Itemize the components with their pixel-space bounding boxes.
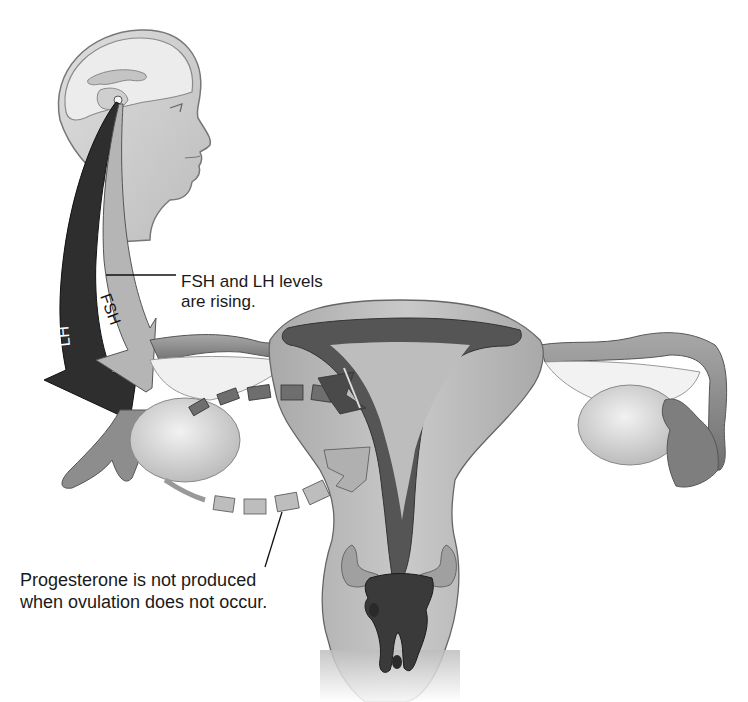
- progesterone-not-produced-label: Progesterone is not produced when ovulat…: [20, 569, 267, 613]
- lh-arrow-label: LH: [54, 325, 73, 347]
- left-ovary: [130, 398, 240, 482]
- flow-droplet: [369, 603, 379, 617]
- flow-droplet: [392, 655, 402, 669]
- fsh-lh-rising-label: FSH and LH levels are rising.: [181, 272, 323, 312]
- progesterone-callout-line: [265, 512, 282, 567]
